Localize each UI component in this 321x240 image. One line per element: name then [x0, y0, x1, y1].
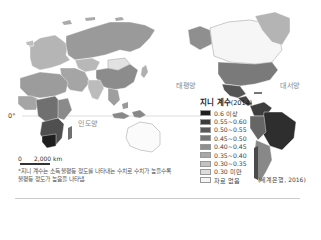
legend-label: 0.40~0.45 — [214, 143, 247, 150]
legend-item: 0.55~0.60 — [200, 117, 260, 125]
ocean-label-indian: 인도양 — [78, 118, 98, 128]
legend-label: 0.6 이상 — [214, 109, 238, 118]
legend-label: 0.55~0.60 — [214, 118, 247, 125]
footnote: *지니 계수는 소득 불평등 정도를 나타내는 수치로 수치가 높을수록 불평등… — [18, 168, 173, 183]
legend-title: 지니 계수(2014) — [200, 96, 260, 107]
region-se-asia — [108, 88, 120, 106]
divider — [15, 198, 300, 199]
legend-label: 자료 없음 — [214, 176, 240, 185]
legend-label: 0.50~0.55 — [214, 126, 247, 133]
legend-swatch — [200, 161, 211, 167]
legend-swatch — [200, 177, 211, 183]
region-australia — [126, 122, 160, 152]
legend-swatch — [200, 127, 211, 133]
legend-swatch — [200, 135, 211, 141]
legend-item: 0.40~0.45 — [200, 143, 260, 151]
legend-label: 0.45~0.50 — [214, 135, 247, 142]
legend-swatch — [200, 119, 211, 125]
legend-item: 0.45~0.50 — [200, 134, 260, 142]
equator-label: 0° — [8, 112, 15, 120]
legend-swatch — [200, 169, 211, 175]
legend: 지니 계수(2014) 0.6 이상 0.55~0.60 0.50~0.55 0… — [200, 96, 260, 185]
legend-title-text: 지니 계수 — [200, 98, 231, 107]
legend-item: 0.50~0.55 — [200, 126, 260, 134]
region-north-africa — [20, 72, 68, 98]
source-citation: (세계은행, 2016) — [258, 175, 306, 184]
region-europe — [30, 35, 70, 70]
scale-zero: 0 — [18, 155, 22, 162]
legend-swatch — [200, 144, 211, 150]
region-brazil — [262, 112, 296, 150]
scale-distance: 2,000 km — [34, 155, 62, 162]
legend-item: 0.6 이상 — [200, 109, 260, 117]
region-alaska — [188, 26, 212, 50]
legend-label: 0.30~0.35 — [214, 160, 247, 167]
region-russia — [66, 22, 155, 60]
ocean-label-pacific: 태평양 — [176, 80, 196, 90]
legend-item: 자료 없음 — [200, 176, 260, 184]
ocean-label-atlantic: 대서양 — [280, 80, 300, 90]
legend-year: (2014) — [231, 99, 253, 107]
legend-item: 0.35~0.40 — [200, 151, 260, 159]
region-india — [88, 80, 104, 100]
legend-swatch — [200, 110, 211, 116]
legend-swatch — [200, 152, 211, 158]
scale-bar — [20, 163, 50, 165]
region-usa — [218, 62, 278, 86]
legend-label: 0.35~0.40 — [214, 152, 247, 159]
